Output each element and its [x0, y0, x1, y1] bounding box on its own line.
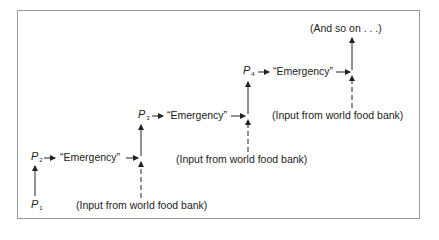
- continuation-label: (And so on . . .): [310, 22, 382, 34]
- node-p1-sub: 1: [39, 205, 42, 211]
- input-label-2: (Input from world food bank): [176, 153, 307, 165]
- node-p3-base: P: [138, 108, 145, 120]
- node-p4-sub: 4: [251, 71, 254, 77]
- input-label-3: (Input from world food bank): [272, 109, 403, 121]
- node-p4-base: P: [243, 64, 250, 76]
- emergency-label-1: “Emergency”: [60, 151, 120, 163]
- node-p4: P4: [243, 64, 255, 77]
- emergency-label-3: “Emergency”: [273, 65, 333, 77]
- node-p3-sub: 3: [146, 115, 149, 121]
- node-p2-base: P: [31, 150, 38, 162]
- node-p2: P2: [31, 150, 43, 163]
- input-label-1: (Input from world food bank): [76, 199, 207, 211]
- node-p1-base: P: [31, 198, 38, 210]
- node-p1: P1: [31, 198, 43, 211]
- emergency-label-2: “Emergency”: [167, 109, 227, 121]
- node-p3: P3: [138, 108, 150, 121]
- node-p2-sub: 2: [39, 157, 42, 163]
